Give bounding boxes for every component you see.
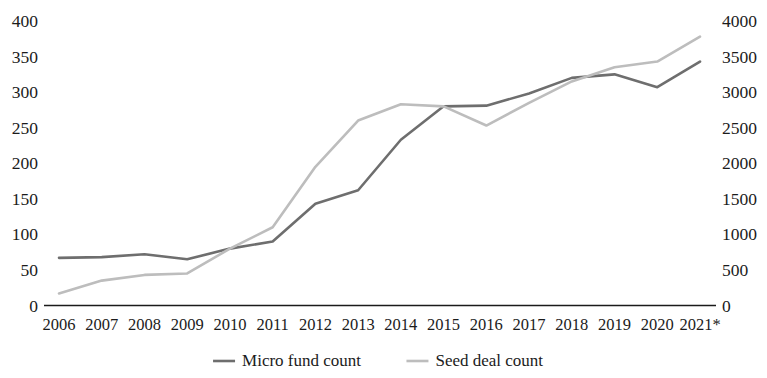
x-axis-tick: 2019 — [598, 315, 631, 334]
x-axis-tick: 2010 — [213, 315, 246, 334]
left-axis-tick: 50 — [21, 260, 39, 280]
right-axis-tick: 500 — [722, 260, 749, 280]
line-chart: 050100150200250300350400 050010001500200… — [0, 0, 767, 378]
left-axis-tick-labels: 050100150200250300350400 — [12, 11, 39, 316]
x-axis-tick: 2006 — [43, 315, 76, 334]
legend-label-seed-deal-count: Seed deal count — [435, 351, 543, 370]
x-axis-tick: 2015 — [427, 315, 460, 334]
x-axis-tick: 2008 — [128, 315, 161, 334]
right-axis-tick: 2500 — [722, 118, 757, 138]
x-axis-tick: 2009 — [171, 315, 204, 334]
x-axis-tick: 2018 — [555, 315, 588, 334]
x-axis-tick: 2011 — [256, 315, 288, 334]
x-axis-tick: 2014 — [384, 315, 417, 334]
left-axis-tick: 100 — [12, 224, 39, 244]
left-axis-tick: 250 — [12, 118, 39, 138]
left-axis-tick: 350 — [12, 47, 39, 67]
x-axis-tick: 2016 — [470, 315, 503, 334]
x-axis-tick: 2013 — [342, 315, 375, 334]
chart-container: 050100150200250300350400 050010001500200… — [0, 0, 767, 378]
x-axis-tick: 2007 — [85, 315, 118, 334]
x-axis-tick: 2021* — [679, 315, 720, 334]
right-axis-tick-labels: 05001000150020002500300035004000 — [722, 11, 757, 316]
x-axis-tick: 2017 — [513, 315, 546, 334]
chart-legend: Micro fund countSeed deal count — [213, 351, 543, 370]
legend-label-micro-fund-count: Micro fund count — [242, 351, 361, 370]
x-axis-tick-labels: 2006200720082009201020112012201320142015… — [43, 315, 721, 334]
left-axis-tick: 300 — [12, 82, 39, 102]
right-axis-tick: 2000 — [722, 153, 757, 173]
left-axis-tick: 0 — [29, 296, 38, 316]
left-axis-tick: 150 — [12, 189, 39, 209]
left-axis-tick: 400 — [12, 11, 39, 31]
right-axis-tick: 3500 — [722, 47, 757, 67]
right-axis-tick: 1500 — [722, 189, 757, 209]
series-lines-group — [59, 37, 700, 294]
left-axis-tick: 200 — [12, 153, 39, 173]
right-axis-tick: 4000 — [722, 11, 757, 31]
x-axis-tick: 2020 — [641, 315, 674, 334]
series-line-micro-fund-count — [59, 62, 700, 260]
right-axis-tick: 3000 — [722, 82, 757, 102]
right-axis-tick: 0 — [722, 296, 731, 316]
right-axis-tick: 1000 — [722, 224, 757, 244]
x-axis-tick: 2012 — [299, 315, 332, 334]
